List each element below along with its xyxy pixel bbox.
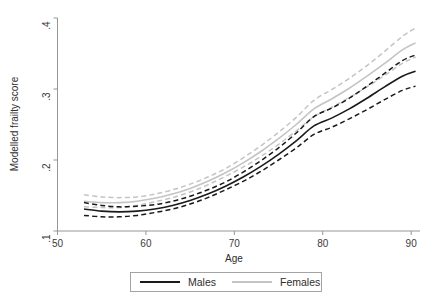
- ci-upper-females: [84, 28, 416, 198]
- chart-svg: .1.2.3.4 5060708090 Modelled frailty sco…: [0, 0, 430, 307]
- ci-lower-females: [84, 57, 416, 208]
- x-tick-label: 90: [406, 238, 418, 249]
- chart-legend: Males Females: [131, 273, 322, 292]
- x-axis-title: Age: [225, 253, 243, 264]
- y-axis-tick-labels: .1.2.3.4: [41, 21, 52, 243]
- data-series-group: [84, 28, 416, 217]
- x-axis-ticks: [58, 231, 412, 235]
- x-tick-label: 60: [140, 238, 152, 249]
- x-axis-tick-labels: 5060708090: [52, 238, 417, 249]
- x-tick-label: 50: [52, 238, 64, 249]
- y-axis-ticks: [54, 18, 58, 231]
- y-tick-label: .3: [41, 92, 52, 101]
- y-axis-title: Modelled frailty score: [9, 76, 20, 171]
- frailty-score-chart: .1.2.3.4 5060708090 Modelled frailty sco…: [0, 0, 430, 307]
- series-females: [84, 28, 416, 208]
- legend-label-males: Males: [188, 276, 216, 288]
- y-tick-label: .1: [41, 234, 52, 243]
- mean-line-males: [84, 71, 416, 212]
- series-males: [84, 55, 416, 217]
- x-tick-label: 80: [317, 238, 329, 249]
- y-tick-label: .2: [41, 163, 52, 172]
- legend-label-females: Females: [280, 276, 320, 288]
- y-tick-label: .4: [41, 21, 52, 30]
- x-tick-label: 70: [229, 238, 241, 249]
